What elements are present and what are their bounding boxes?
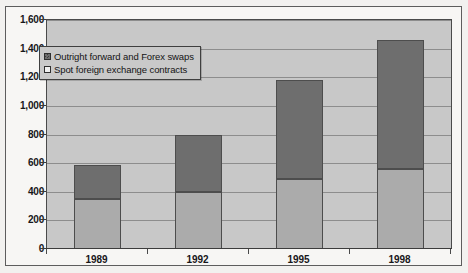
x-axis-tick-mark: [349, 249, 350, 254]
bar-segment-spot-foreign-exchange[interactable]: [175, 192, 222, 249]
legend-item-label: Spot foreign exchange contracts: [54, 64, 187, 75]
y-axis-tick-mark: [40, 219, 46, 220]
chart-frame: 1,6001,4001,2001,0008006004002000 198919…: [0, 0, 468, 273]
bar-group[interactable]: [276, 20, 323, 249]
x-axis-tick-label: 1995: [287, 254, 309, 265]
x-axis-tick-mark: [147, 249, 148, 254]
bar-segment-spot-foreign-exchange[interactable]: [276, 179, 323, 249]
y-axis-tick-mark: [40, 19, 46, 20]
bar-segment-outright-forward-forex-swaps[interactable]: [377, 40, 424, 169]
legend-item-outright-forward: Outright forward and Forex swaps: [44, 50, 194, 63]
x-axis-line: [46, 248, 452, 249]
y-axis-tick-mark: [40, 191, 46, 192]
bar-segment-outright-forward-forex-swaps[interactable]: [74, 165, 121, 199]
legend-item-spot-fx: Spot foreign exchange contracts: [44, 63, 194, 76]
dark-hatch-swatch-icon: [44, 53, 51, 60]
x-axis-tick-mark: [248, 249, 249, 254]
y-axis-tick-mark: [40, 162, 46, 163]
x-axis-tick-mark: [46, 249, 47, 254]
x-axis-tick-label: 1992: [186, 254, 208, 265]
bar-segment-outright-forward-forex-swaps[interactable]: [175, 135, 222, 192]
bar-segment-spot-foreign-exchange[interactable]: [377, 169, 424, 249]
y-axis-tick-mark: [40, 134, 46, 135]
chart-legend: Outright forward and Forex swaps Spot fo…: [39, 46, 201, 80]
y-axis-tick-mark: [40, 105, 46, 106]
x-axis-tick-mark: [450, 249, 451, 254]
bar-group[interactable]: [377, 20, 424, 249]
x-axis-tick-label: 1989: [85, 254, 107, 265]
bar-segment-outright-forward-forex-swaps[interactable]: [276, 80, 323, 179]
x-axis-tick-label: 1998: [388, 254, 410, 265]
bar-segment-spot-foreign-exchange[interactable]: [74, 199, 121, 249]
light-swatch-icon: [44, 66, 51, 73]
legend-item-label: Outright forward and Forex swaps: [54, 51, 194, 62]
